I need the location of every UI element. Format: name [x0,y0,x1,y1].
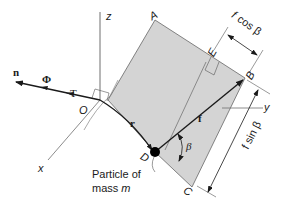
y-axis-label: y [263,101,271,113]
origin-label: O [79,104,88,116]
fcos-label: f cos β [230,9,264,38]
point-d-label: D [139,150,152,164]
fcos-ext-e [214,27,228,50]
point-c-label: C [182,184,195,198]
particle-caption-line2: mass m [92,182,131,194]
fsin-ext-c [197,186,216,197]
fcos-rest: cos β [235,13,264,38]
x-axis-label: x [37,162,44,174]
n-vector [16,82,100,100]
plane-region [108,20,245,187]
particle-caption-line1: Particle of [92,168,142,180]
beta-label: β [185,140,192,152]
r-label: r [130,117,135,129]
fsin-ext-b [247,80,270,94]
phi-label: Φ [42,73,51,85]
point-a-label: A [146,8,159,23]
z-axis-label: z [105,10,112,22]
n-label: n [13,66,19,78]
point-b-label: B [243,69,257,81]
diagram-canvas: z x y A B C D E O n Φ T r f β f cos β f … [0,0,290,206]
x-axis [48,100,100,160]
fcos-ext-b [249,50,263,73]
fcos-dim [228,35,257,55]
fsin-label: f sin β [239,119,263,151]
f-label: f [198,112,202,124]
t-label: T [70,87,77,99]
particle-leader [152,157,155,172]
particle-dot [150,147,160,157]
